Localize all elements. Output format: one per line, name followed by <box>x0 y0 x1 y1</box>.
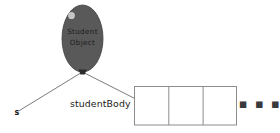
array-outline <box>135 87 237 126</box>
balloon-text-line-1: Student <box>67 27 98 36</box>
array-box <box>135 87 237 126</box>
diagram-canvas: Student Object s studentBody ▪ ▪ ▪ <box>0 0 280 133</box>
balloon-object-diagram: Student Object s studentBody ▪ ▪ ▪ <box>0 0 280 133</box>
array-continuation-ellipsis: ▪ ▪ ▪ <box>239 96 280 111</box>
balloon-highlight-icon <box>68 12 75 19</box>
reference-variable-label: s <box>15 108 20 117</box>
array-name-label: studentBody <box>70 98 131 109</box>
balloon-text-line-2: Object <box>70 38 96 47</box>
student-object-balloon: Student Object <box>62 5 103 72</box>
